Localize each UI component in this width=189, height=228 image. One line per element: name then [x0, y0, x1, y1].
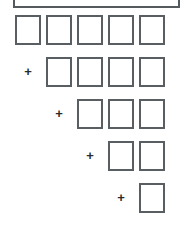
rectangle-cell[interactable]: [139, 183, 165, 213]
rectangle-cell[interactable]: [77, 57, 103, 87]
rectangle-cell[interactable]: [139, 141, 165, 171]
rectangle-cell[interactable]: [15, 15, 41, 45]
top-container-box: [13, 0, 180, 8]
rectangle-cell[interactable]: [108, 99, 134, 129]
rectangle-cell[interactable]: [108, 141, 134, 171]
plus-icon: +: [84, 141, 96, 171]
rectangle-cell[interactable]: [108, 15, 134, 45]
plus-icon: +: [22, 57, 34, 87]
diagram-row: +: [0, 183, 189, 213]
rectangle-cell[interactable]: [46, 57, 72, 87]
rectangle-cell[interactable]: [77, 99, 103, 129]
diagram-row: [0, 15, 189, 45]
rectangle-cell[interactable]: [139, 15, 165, 45]
rectangle-cell[interactable]: [139, 57, 165, 87]
diagram-row: +: [0, 99, 189, 129]
rectangle-cell[interactable]: [139, 99, 165, 129]
plus-icon: +: [53, 99, 65, 129]
rectangle-cell[interactable]: [46, 15, 72, 45]
rectangle-cell[interactable]: [108, 57, 134, 87]
diagram-row: +: [0, 141, 189, 171]
rectangle-cell[interactable]: [77, 15, 103, 45]
diagram-row: +: [0, 57, 189, 87]
plus-icon: +: [115, 183, 127, 213]
diagram-canvas: ++++: [0, 0, 189, 228]
